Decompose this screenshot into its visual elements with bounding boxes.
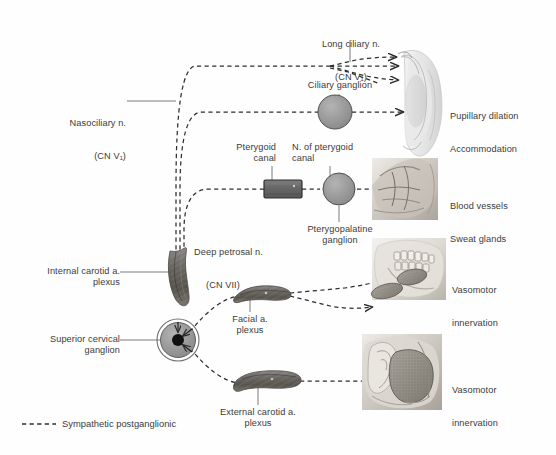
ear-parotid-image [362,334,442,410]
label-facial-plexus: Facial a. plexus [216,314,284,337]
label-pterygopalatine-ganglion: Pterygopalatine ganglion [294,224,386,247]
label-ciliary-ganglion: Ciliary ganglion [284,80,396,91]
path-scg-to-external-carotid [190,348,238,383]
ciliary-ganglion-structure [318,95,352,129]
pterygopalatine-ganglion-structure [323,173,355,205]
jaw-salivary-image [370,238,446,302]
label-internal-carotid-plexus: Internal carotid a. plexus [6,266,120,289]
nasal-cavity-image [372,158,438,220]
label-pterygoid-canal: Pterygoid canal [216,142,276,165]
external-carotid-plexus-structure [233,371,301,392]
label-superior-cervical-ganglion: Superior cervical ganglion [6,334,120,357]
label-nasociliary-nerve: Nasociliary n. (CN V₁) [8,95,126,174]
label-external-carotid-plexus: External carotid a. plexus [206,407,310,430]
legend-label: Sympathetic postganglionic [62,418,176,429]
superior-cervical-ganglion-structure [157,319,199,361]
label-n-of-pterygoid-canal: N. of pterygoid canal [292,142,376,165]
pterygoid-canal-structure [264,180,302,198]
internal-carotid-plexus-structure [168,248,189,307]
outcome-label-jaw-salivary: Vasomotor innervation [452,262,552,341]
figure-canvas: Long ciliary n. (CN V₁) Ciliary ganglion… [0,0,556,455]
outcome-label-nasal-cavity: Blood vessels Sweat glands [450,178,556,257]
outcome-label-ear-parotid: Vasomotor innervation [452,362,552,441]
outcome-label-eye: Pupillary dilation Accommodation [450,88,556,167]
label-deep-petrosal-nerve: Deep petrosal n. (CN VII) [194,224,304,303]
